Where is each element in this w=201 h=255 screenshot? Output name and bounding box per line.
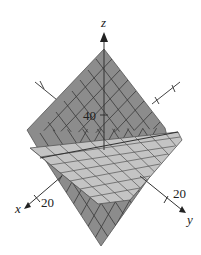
y-tick-label: 20 <box>173 186 186 201</box>
x-axis-label: x <box>14 201 21 216</box>
y-axis-label: y <box>185 212 193 227</box>
x-tick-label: 20 <box>41 195 54 210</box>
z-arrow-icon <box>100 32 108 42</box>
y-arrow-icon <box>179 206 186 213</box>
plot-canvas: z 40 x 20 y 20 <box>0 0 201 255</box>
z-tick-label: 40 <box>83 108 96 123</box>
3d-plot: z 40 x 20 y 20 <box>0 0 201 255</box>
z-axis-label: z <box>100 15 106 30</box>
